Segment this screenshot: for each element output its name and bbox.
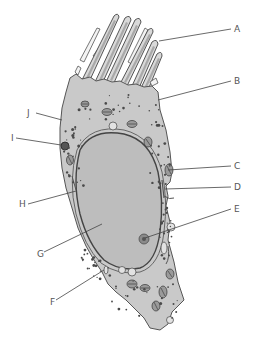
granule (132, 280, 133, 281)
granule (89, 268, 90, 269)
granule (173, 303, 175, 305)
granule (172, 283, 174, 285)
granule (78, 108, 81, 111)
granule (66, 139, 67, 140)
granule (158, 109, 160, 111)
mitochondrion (159, 286, 167, 298)
granule (73, 133, 75, 135)
granule (158, 145, 160, 147)
mitochondrion (102, 109, 112, 116)
granule (160, 165, 162, 167)
vesicle (109, 122, 117, 130)
label-d: D (234, 182, 241, 192)
label-a: A (234, 24, 241, 34)
granule (99, 277, 102, 280)
granule (163, 214, 165, 216)
label-e: E (234, 204, 240, 214)
granule (75, 128, 77, 130)
granule (138, 105, 140, 107)
granule (167, 222, 168, 223)
granule (151, 124, 153, 126)
granule (80, 140, 81, 141)
granule (99, 259, 102, 262)
granule (87, 268, 89, 270)
granule (84, 108, 86, 110)
granule (81, 257, 83, 259)
granule (166, 212, 168, 214)
leader-line-i (16, 138, 61, 145)
granule (133, 288, 136, 291)
granule (163, 142, 166, 145)
granule (160, 221, 163, 224)
granule (127, 97, 129, 99)
label-j: J (26, 108, 30, 118)
vesicle (104, 266, 108, 274)
granule (129, 102, 131, 104)
granule (111, 301, 113, 303)
granule (125, 309, 127, 311)
granule (126, 295, 128, 297)
granule (109, 274, 112, 277)
granule (77, 145, 80, 148)
granule (78, 167, 80, 169)
mitochondrion (81, 101, 89, 107)
leader-line-f (56, 270, 104, 300)
granule (89, 118, 90, 119)
granule (150, 145, 152, 147)
granule (158, 181, 160, 183)
leader-line-b (158, 81, 231, 100)
granule (118, 105, 119, 106)
mitochondrion (140, 285, 150, 292)
granule (168, 255, 170, 257)
granule (109, 95, 110, 96)
granule (71, 128, 74, 131)
label-i: I (11, 133, 14, 143)
granule (159, 237, 160, 238)
granule (94, 262, 96, 264)
granule (162, 125, 164, 127)
granule (72, 156, 74, 158)
vesicle (119, 267, 126, 274)
granule (76, 181, 78, 183)
granule (72, 136, 75, 139)
granule (82, 184, 85, 187)
granule (92, 264, 95, 267)
granule (112, 114, 113, 115)
granule (164, 174, 166, 176)
label-b: B (234, 76, 240, 86)
label-f: F (50, 297, 55, 307)
granule (118, 308, 121, 311)
granule (97, 277, 98, 278)
granule (81, 145, 82, 146)
granule (151, 182, 153, 184)
granule (115, 288, 116, 289)
granule (167, 232, 168, 233)
hair-cell-diagram: A B C D E F G H I J (0, 0, 253, 342)
granule (84, 249, 87, 252)
granule (158, 186, 161, 189)
granule (157, 286, 159, 288)
granule (157, 124, 160, 127)
granule (157, 154, 159, 156)
granule (169, 242, 171, 244)
granule (67, 152, 69, 154)
granule (163, 232, 165, 234)
granule (168, 231, 170, 233)
leader-line-a (159, 29, 231, 41)
granule (171, 236, 173, 238)
granule (68, 175, 71, 178)
granule (108, 267, 109, 268)
leader-line-c (168, 166, 231, 170)
granule (105, 102, 108, 105)
granule (165, 208, 167, 210)
granule (112, 108, 115, 111)
granule (143, 288, 145, 290)
granule (164, 164, 166, 166)
granule (170, 220, 172, 222)
granule (80, 180, 81, 181)
granule (125, 295, 126, 296)
granule (151, 153, 153, 155)
granule (155, 104, 157, 106)
granule (149, 172, 151, 174)
granule (163, 257, 166, 260)
